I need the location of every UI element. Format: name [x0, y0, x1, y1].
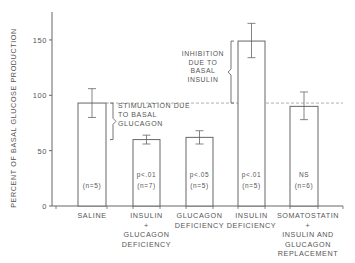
stimulation-annotation: TO BASAL [118, 111, 157, 118]
y-tick-label: 100 [33, 91, 47, 100]
stimulation-bracket [110, 103, 116, 140]
category-label: INSULIN AND [282, 230, 334, 239]
significance-label: NS [299, 171, 309, 178]
inhibition-annotation: DUE TO [188, 59, 217, 66]
category-label: SOMATOSTATIN [277, 211, 339, 220]
bar [290, 106, 318, 206]
y-tick-label: 0 [42, 202, 47, 211]
n-label: (n=6) [295, 182, 313, 190]
category-label: SALINE [77, 211, 106, 220]
stimulation-annotation: GLUCAGON [118, 120, 163, 127]
bar-chart: PERCENT OF BASAL GLUCOSE PRODUCTION05010… [0, 0, 355, 263]
category-label: INSULIN [130, 211, 163, 220]
y-tick-label: 150 [33, 36, 47, 45]
category-label: GLUCAGON [285, 240, 331, 249]
bar [78, 103, 106, 206]
y-axis-label: PERCENT OF BASAL GLUCOSE PRODUCTION [9, 28, 18, 208]
n-label: (n=5) [242, 182, 260, 190]
significance-label: p<.01 [137, 171, 156, 179]
inhibition-annotation: INSULIN [187, 76, 218, 83]
n-label: (n=5) [83, 182, 101, 190]
significance-label: p<.01 [242, 171, 261, 179]
category-label: INSULIN [235, 211, 268, 220]
category-label: DEFICIENCY [227, 221, 277, 230]
category-label: DEFICIENCY [175, 221, 225, 230]
category-label: GLUCAGON [177, 211, 223, 220]
inhibition-bracket [228, 41, 234, 103]
category-label: GLUCAGON [124, 230, 170, 239]
n-label: (n=7) [137, 182, 155, 190]
significance-label: p<.05 [190, 171, 209, 179]
category-label: + [144, 221, 149, 230]
inhibition-annotation: BASAL [191, 67, 216, 74]
category-label: + [306, 221, 311, 230]
inhibition-annotation: INHIBITION [182, 50, 224, 57]
stimulation-annotation: STIMULATION DUE [118, 102, 190, 109]
category-label: REPLACEMENT [278, 249, 339, 258]
category-label: DEFICIENCY [122, 240, 172, 249]
y-tick-label: 50 [37, 147, 47, 156]
n-label: (n=5) [190, 182, 208, 190]
